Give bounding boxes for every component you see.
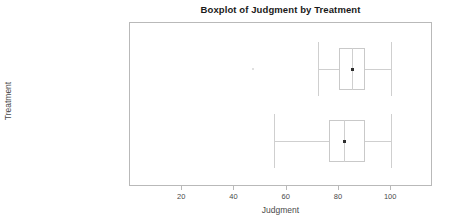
- x-tick-label-80: 80: [318, 192, 358, 201]
- whisker-cap-low-1: [274, 114, 275, 168]
- box-1: [329, 120, 366, 162]
- whisker-cap-high-1: [391, 114, 392, 168]
- x-tick-100: [390, 186, 391, 190]
- whisker-cap-high-0: [391, 42, 392, 96]
- x-tick-40: [233, 186, 234, 190]
- whisker-line-low-1: [274, 141, 329, 142]
- boxplot-figure: Boxplot of Judgment by Treatment Treatme…: [0, 0, 459, 217]
- whisker-line-high-0: [365, 69, 391, 70]
- chart-title: Boxplot of Judgment by Treatment: [129, 4, 432, 15]
- plot-frame: Judgment Added Mineral SupplementRegular…: [129, 22, 432, 186]
- y-axis-title: Treatment: [3, 31, 13, 171]
- x-tick-label-60: 60: [266, 192, 306, 201]
- whisker-line-high-1: [365, 141, 391, 142]
- whisker-cap-low-0: [318, 42, 319, 96]
- whisker-line-low-0: [318, 69, 339, 70]
- x-tick-label-20: 20: [161, 192, 201, 201]
- mean-marker-1: [343, 140, 346, 143]
- x-axis-ticks: 20406080100: [129, 186, 432, 208]
- x-tick-label-40: 40: [213, 192, 253, 201]
- x-tick-80: [338, 186, 339, 190]
- outlier-0-0: [252, 68, 254, 70]
- plot-area: [130, 23, 431, 185]
- mean-marker-0: [351, 68, 354, 71]
- x-tick-60: [286, 186, 287, 190]
- x-tick-20: [181, 186, 182, 190]
- x-tick-label-100: 100: [370, 192, 410, 201]
